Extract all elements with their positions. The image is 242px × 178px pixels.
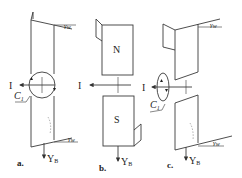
north-label: N xyxy=(113,44,120,55)
bottom-plate xyxy=(175,95,232,150)
angle-bottom-label: γw xyxy=(213,139,220,147)
top-tab xyxy=(163,24,175,50)
force-label: YB xyxy=(189,155,200,166)
top-tab xyxy=(31,12,33,20)
hidden-edge xyxy=(48,117,51,134)
angle-bottom-label: γw xyxy=(68,135,75,143)
force-label: YB xyxy=(121,156,132,167)
current-label: I xyxy=(78,80,81,91)
hidden-edge xyxy=(190,123,193,140)
magnetic-field-diagram: γw I C1 γw YB a. N xyxy=(0,0,242,178)
angle-top-label: γw xyxy=(64,22,71,30)
panel-caption: c. xyxy=(167,160,173,170)
force-label: YB xyxy=(47,153,58,164)
south-label: S xyxy=(114,114,120,125)
panel-caption: b. xyxy=(99,163,106,173)
north-tab xyxy=(96,19,102,41)
south-tab xyxy=(134,124,141,146)
current-label: I xyxy=(9,80,12,91)
panel-b: N I S YB b. xyxy=(78,19,141,173)
bottom-plate xyxy=(31,96,72,147)
current-label: I xyxy=(142,82,145,93)
panel-caption: a. xyxy=(17,158,24,168)
loop-label: C1 xyxy=(14,90,24,102)
angle-top-label: γw xyxy=(210,21,217,29)
loop-label: C1 xyxy=(150,99,160,111)
loop-arrow-up xyxy=(160,79,163,82)
panel-c: γw I C1 γw YB c. xyxy=(142,19,232,170)
loop-arrow-down xyxy=(165,89,168,92)
panel-a: γw I C1 γw YB a. xyxy=(9,12,78,168)
